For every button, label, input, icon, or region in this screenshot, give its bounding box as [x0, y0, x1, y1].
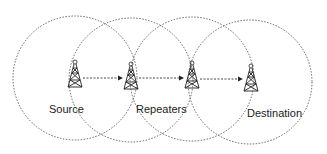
repeater-2-tower-icon — [185, 61, 199, 88]
repeaters-label: Repeaters — [136, 103, 187, 115]
destination-coverage-circle — [188, 20, 312, 144]
repeater-1-coverage-circle — [69, 18, 193, 142]
destination-label: Destination — [247, 107, 302, 119]
relay-diagram: Source Repeaters Destination — [0, 0, 327, 154]
diagram-canvas — [0, 0, 327, 154]
destination-tower-icon — [244, 64, 258, 91]
source-label: Source — [49, 103, 84, 115]
source-tower-icon — [68, 60, 82, 87]
repeater-1-tower-icon — [124, 62, 138, 89]
coverage-circles — [13, 16, 312, 144]
links — [83, 78, 242, 79]
